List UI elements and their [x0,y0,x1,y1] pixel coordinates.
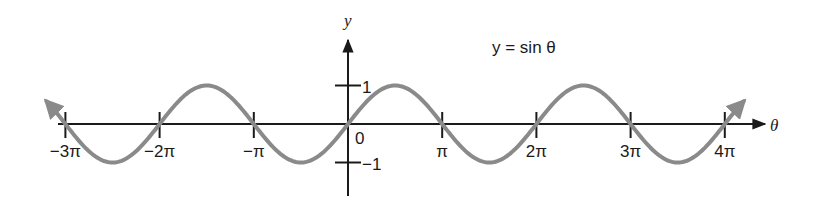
y-tick-label: 1 [362,78,371,97]
x-axis-label: θ [770,116,778,135]
x-tick-label: 4π [714,142,735,161]
x-tick-label: −3π [50,142,81,161]
x-tick-label: −2π [144,142,175,161]
chart-title: y = sin θ [492,38,556,57]
origin-label: 0 [355,129,364,148]
x-tick-label: 3π [620,142,641,161]
y-tick-label: −1 [362,155,381,174]
x-tick-label: 2π [526,142,547,161]
y-axis-label: y [342,11,352,30]
sine-chart: −3π−2π−ππ2π3π4π 1−1 0 y θ y = sin θ [0,0,819,202]
x-tick-labels: −3π−2π−ππ2π3π4π [50,142,736,161]
x-tick-label: π [436,142,448,161]
x-tick-label: −π [243,142,265,161]
